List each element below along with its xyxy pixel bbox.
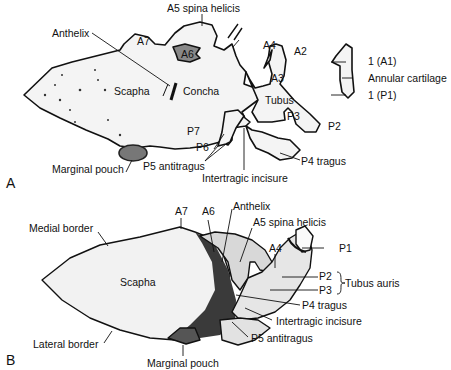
label-p5-antitragus: P5 antitragus	[143, 160, 205, 172]
annular-cartilage	[332, 44, 354, 98]
label-b-a7: A7	[175, 205, 188, 217]
label-p7: P7	[187, 125, 200, 137]
label-concha: Concha	[183, 85, 219, 97]
label-intertragic-incisure: Intertragic incisure	[202, 172, 288, 184]
label-1-a1: 1 (A1)	[368, 55, 397, 67]
ear-cartilage-figure: A5 spina helicis Anthelix A7 A6 A4 A2 A3…	[0, 0, 451, 370]
label-b-marginal-pouch: Marginal pouch	[147, 357, 219, 369]
label-p2: P2	[328, 120, 341, 132]
label-b-anthelix: Anthelix	[233, 200, 270, 212]
label-b-a6: A6	[202, 205, 215, 217]
panel-letter-a: A	[6, 176, 15, 190]
label-b-p2: P2	[319, 270, 332, 282]
label-tubus: Tubus	[265, 94, 294, 106]
label-a7: A7	[137, 35, 150, 47]
label-lateral-border: Lateral border	[33, 338, 98, 350]
label-medial-border: Medial border	[29, 222, 93, 234]
marginal-pouch	[119, 145, 147, 161]
label-anthelix: Anthelix	[52, 27, 89, 39]
label-1-p1: 1 (P1)	[368, 89, 397, 101]
label-p3: P3	[287, 110, 300, 122]
label-a5-spina-helicis: A5 spina helicis	[167, 2, 240, 14]
label-a2: A2	[294, 45, 307, 57]
label-b-p3: P3	[319, 284, 332, 296]
label-a4: A4	[263, 39, 276, 51]
label-b-scapha: Scapha	[120, 276, 156, 288]
tragus-outline	[246, 126, 300, 160]
label-b-intertragic-incisure: Intertragic incisure	[276, 315, 362, 327]
label-b-a5-spina-helicis: A5 spina helicis	[253, 216, 326, 228]
label-p4-tragus: P4 tragus	[301, 155, 346, 167]
label-p6: P6	[196, 141, 209, 153]
label-b-a4: A4	[269, 242, 282, 254]
panel-letter-b: B	[6, 353, 15, 367]
label-b-p1: P1	[339, 242, 352, 254]
label-tubus-auris: Tubus auris	[345, 277, 399, 289]
label-b-p5-antitragus: P5 antitragus	[251, 332, 313, 344]
label-b-p4-tragus: P4 tragus	[302, 299, 347, 311]
label-a3: A3	[271, 72, 284, 84]
label-scapha: Scapha	[114, 85, 150, 97]
label-a6: A6	[181, 48, 194, 60]
tubus-outline	[246, 44, 320, 132]
label-marginal-pouch: Marginal pouch	[52, 163, 124, 175]
label-annular-cartilage: Annular cartilage	[368, 72, 447, 84]
